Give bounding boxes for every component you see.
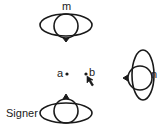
facing-nub-icon bbox=[123, 75, 128, 81]
figure-m bbox=[40, 14, 92, 42]
figure-n-label: n bbox=[151, 69, 157, 80]
figure-signer bbox=[40, 94, 92, 123]
facing-nub-icon bbox=[63, 38, 69, 42]
figure-n bbox=[123, 50, 154, 100]
figure-signer-label: Signer bbox=[6, 108, 38, 119]
locus-a-label: a bbox=[57, 68, 63, 79]
shoulders-ellipse bbox=[40, 14, 92, 36]
head-circle bbox=[54, 14, 78, 38]
locus-b-dot bbox=[84, 72, 87, 75]
figure-m-label: m bbox=[62, 1, 71, 12]
locus-a-dot bbox=[65, 72, 68, 75]
facing-nub-icon bbox=[63, 94, 69, 99]
shoulders-ellipse bbox=[40, 103, 92, 123]
locus-b-label: b bbox=[89, 67, 95, 78]
